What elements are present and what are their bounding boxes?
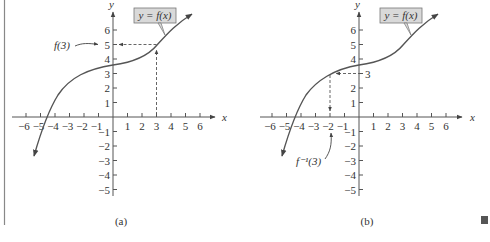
svg-text:4: 4 bbox=[168, 120, 174, 132]
f3-pointer-arrow bbox=[75, 44, 98, 46]
curve-label: y = f(x) bbox=[383, 9, 417, 22]
svg-text:−4: −4 bbox=[98, 169, 110, 181]
svg-text:−4: −4 bbox=[47, 120, 59, 132]
svg-text:3: 3 bbox=[154, 120, 160, 132]
svg-text:5: 5 bbox=[351, 39, 357, 51]
svg-text:−5: −5 bbox=[344, 184, 356, 196]
svg-text:1: 1 bbox=[105, 97, 111, 109]
svg-text:5: 5 bbox=[183, 120, 189, 132]
svg-text:4: 4 bbox=[351, 53, 357, 65]
svg-text:−3: −3 bbox=[344, 155, 356, 167]
svg-text:6: 6 bbox=[351, 24, 357, 36]
y-axis-label: y bbox=[108, 0, 114, 10]
svg-text:−1: −1 bbox=[344, 126, 356, 138]
y-tick-labels: 6 5 4 3 2 1 −1 −2 −3 −4 −5 bbox=[98, 24, 110, 196]
svg-text:2: 2 bbox=[385, 120, 391, 132]
svg-text:−1: −1 bbox=[98, 126, 110, 138]
f3-annotation: f(3) bbox=[54, 39, 70, 52]
curve-label-pointer bbox=[158, 23, 165, 35]
svg-text:1: 1 bbox=[351, 97, 357, 109]
svg-text:2: 2 bbox=[139, 120, 145, 132]
svg-text:5: 5 bbox=[429, 120, 435, 132]
svg-text:4: 4 bbox=[414, 120, 420, 132]
svg-text:2: 2 bbox=[351, 82, 357, 94]
svg-text:−3: −3 bbox=[98, 155, 110, 167]
svg-text:2: 2 bbox=[105, 82, 111, 94]
y-ticks bbox=[359, 30, 363, 190]
svg-text:−2: −2 bbox=[98, 140, 110, 152]
y-marker-3-label: 3 bbox=[365, 68, 371, 80]
svg-text:−5: −5 bbox=[98, 184, 110, 196]
svg-text:1: 1 bbox=[125, 120, 131, 132]
x-axis-label: x bbox=[469, 111, 475, 123]
svg-text:1: 1 bbox=[371, 120, 377, 132]
svg-text:3: 3 bbox=[400, 120, 406, 132]
end-marker-square bbox=[481, 216, 488, 224]
y-tick-labels: 6 5 4 2 1 −1 −2 −3 −4 −5 bbox=[344, 24, 356, 196]
y-ticks bbox=[113, 30, 117, 190]
panel-b: x y −6 −5 −4 −3 −2 −1 1 2 3 4 5 6 bbox=[260, 0, 475, 228]
svg-text:−3: −3 bbox=[308, 120, 320, 132]
svg-text:−2: −2 bbox=[344, 140, 356, 152]
panel-a-caption: (a) bbox=[115, 215, 128, 228]
svg-text:4: 4 bbox=[105, 53, 111, 65]
panel-a: x y −6 −5 −4 −3 −2 −1 1 2 3 4 5 6 bbox=[12, 0, 227, 228]
svg-text:−3: −3 bbox=[62, 120, 74, 132]
svg-text:−6: −6 bbox=[264, 120, 276, 132]
curve-label: y = f(x) bbox=[137, 9, 171, 22]
panel-b-caption: (b) bbox=[361, 215, 374, 228]
svg-text:−4: −4 bbox=[344, 169, 356, 181]
svg-text:−6: −6 bbox=[18, 120, 30, 132]
svg-text:−2: −2 bbox=[322, 120, 334, 132]
svg-text:6: 6 bbox=[197, 120, 203, 132]
function-curve bbox=[282, 14, 438, 156]
x-axis-label: x bbox=[221, 111, 227, 123]
svg-text:−5: −5 bbox=[279, 120, 291, 132]
svg-text:6: 6 bbox=[443, 120, 449, 132]
f-inverse-annotation: f⁻¹(3) bbox=[296, 155, 322, 168]
svg-text:−2: −2 bbox=[76, 120, 88, 132]
svg-text:5: 5 bbox=[105, 39, 111, 51]
svg-text:3: 3 bbox=[105, 68, 111, 80]
svg-text:6: 6 bbox=[105, 24, 111, 36]
svg-text:−4: −4 bbox=[293, 120, 305, 132]
f-inverse-pointer-arrow bbox=[325, 133, 331, 159]
y-axis-label: y bbox=[354, 0, 360, 10]
figure: x y −6 −5 −4 −3 −2 −1 1 2 3 4 5 6 bbox=[0, 0, 490, 242]
curve-label-pointer bbox=[404, 23, 411, 35]
